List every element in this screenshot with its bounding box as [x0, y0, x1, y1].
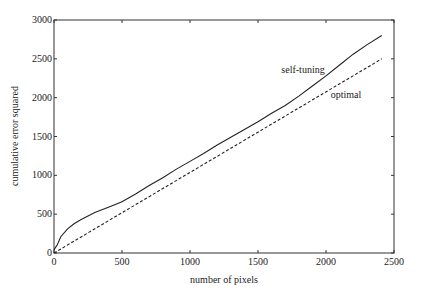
axis-ticks: 0500100015002000250005001000150020002500…: [32, 14, 404, 267]
chart-container: 0500100015002000250005001000150020002500…: [0, 0, 424, 297]
annotation-self-tuning: self-tuning: [281, 64, 324, 75]
y-tick-label: 1500: [32, 131, 52, 142]
line-chart: 0500100015002000250005001000150020002500…: [0, 0, 424, 297]
y-tick-label: 0: [47, 247, 52, 258]
x-tick-label: 0: [52, 256, 57, 267]
plot-frame: [54, 20, 394, 253]
x-tick-label: 1000: [180, 256, 200, 267]
y-tick-label: 500: [37, 208, 52, 219]
x-tick-label: 1500: [248, 256, 268, 267]
y-tick-label: 3000: [32, 14, 52, 25]
x-axis-label: number of pixels: [190, 274, 258, 285]
x-tick-label: 500: [115, 256, 130, 267]
x-tick-label: 2500: [384, 256, 404, 267]
annotation-optimal: optimal: [331, 89, 362, 100]
series-self-tuning: [54, 36, 382, 250]
series-lines: [54, 36, 382, 253]
x-tick-label: 2000: [316, 256, 336, 267]
y-tick-label: 1000: [32, 169, 52, 180]
series-optimal: [54, 59, 382, 253]
y-tick-label: 2500: [32, 53, 52, 64]
y-tick-label: 2000: [32, 92, 52, 103]
y-axis-label: cumulative error squared: [9, 86, 20, 186]
